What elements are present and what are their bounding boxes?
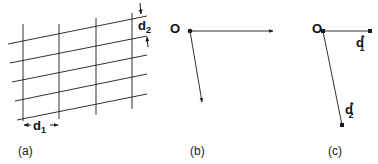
reciprocal-vector-2 [323, 31, 342, 125]
origin-label-c: O [312, 21, 322, 36]
origin-label-b: O [170, 21, 180, 36]
d1-label: d1 [33, 118, 46, 135]
caption-a: (a) [18, 144, 33, 158]
d2-star-point [340, 123, 344, 127]
panel-b-vectors [190, 31, 273, 102]
lattice-diagram: d1 d2 (a) O (b) O d*1 d*2 (c) [0, 0, 378, 164]
d1-star-point [368, 29, 372, 33]
d2-label: d2 [138, 18, 151, 35]
caption-b: (b) [190, 144, 205, 158]
d1-star-label: d*1 [356, 33, 365, 53]
slanted-line-5 [17, 94, 147, 120]
slanted-line-4 [15, 74, 147, 101]
d2-star-label: d*2 [345, 100, 354, 120]
caption-c: (c) [328, 144, 342, 158]
vector-downward [190, 31, 202, 102]
d2-arrow-bottom [147, 37, 148, 47]
origin-dot-b [188, 29, 193, 34]
d2-arrow-top [140, 3, 141, 14]
panel-a-lattice [8, 13, 147, 121]
